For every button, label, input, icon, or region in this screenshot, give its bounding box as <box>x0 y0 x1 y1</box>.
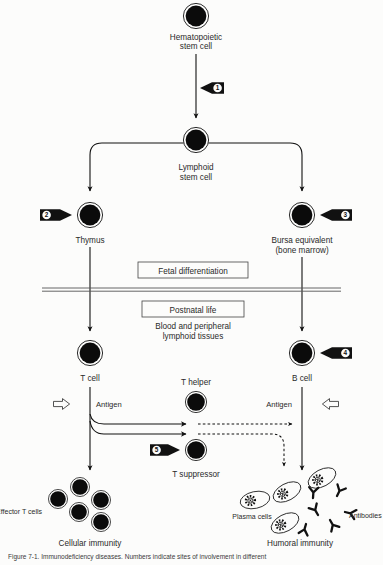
filled-cell-icon <box>71 478 90 497</box>
bursa-equivalent-label-line1: Bursa equivalent <box>272 236 334 245</box>
bursa-equivalent-label-line2: (bone marrow) <box>275 246 329 255</box>
marker-1: 1 <box>200 82 224 94</box>
t-suppressor-node: T suppressor <box>172 439 220 479</box>
plasma-cells-label: Plasma cells <box>232 513 272 520</box>
branch-lymphoid-to-bursa <box>208 143 302 191</box>
plasma-cell-icon <box>268 509 302 538</box>
b-cell-label: B cell <box>292 374 312 383</box>
plasma-cell-icon <box>239 489 272 512</box>
plasma-cells-group: Plasma cells <box>232 464 339 538</box>
thymus-node: Thymus <box>75 202 104 245</box>
filled-cell-icon <box>92 513 111 532</box>
filled-cell-icon <box>77 202 102 227</box>
filled-cell-icon <box>92 491 111 510</box>
t-suppressor-label: T suppressor <box>172 470 220 479</box>
branch-tcell-to-tsuppressor <box>90 421 186 434</box>
tissue-note-line2: lymphoid tissues <box>163 332 224 341</box>
tissue-note-line1: Blood and peripheral <box>155 322 231 331</box>
figure-caption: Figure 7-1. Immunodeficiency diseases. N… <box>8 553 380 561</box>
antibodies-label: Antibodies <box>349 512 382 519</box>
marker-3-label: 3 <box>344 211 348 218</box>
b-cell-node: B cell <box>289 340 314 383</box>
hematopoietic-stem-cell-node: Hematopoietic stem cell <box>170 3 222 51</box>
antibody-y-icon <box>333 484 346 498</box>
filled-cell-icon <box>49 490 68 509</box>
marker-2: 2 <box>40 209 72 221</box>
lymphoid-stem-cell-label-line2: stem cell <box>180 173 212 182</box>
hollow-arrow-icon <box>54 399 70 410</box>
marker-1-label: 1 <box>216 84 220 91</box>
antibody-y-icon <box>308 487 318 498</box>
filled-cell-icon <box>77 340 102 365</box>
effector-t-cells-label: Effector T cells <box>0 508 42 515</box>
branch-lymphoid-to-thymus <box>90 143 184 191</box>
stage-box-fetal-label: Fetal differentiation <box>158 267 228 276</box>
lymphoid-stem-cell-label-line1: Lymphoid <box>178 163 214 172</box>
antigen-left: Antigen <box>54 399 122 410</box>
filled-cell-icon <box>183 3 208 28</box>
t-helper-label: T helper <box>181 378 211 387</box>
antigen-left-label: Antigen <box>96 400 122 409</box>
marker-5-label: 5 <box>155 446 159 453</box>
antibody-y-icon <box>309 504 322 518</box>
thymus-label: Thymus <box>75 236 104 245</box>
hollow-arrow-icon <box>322 399 338 410</box>
antigen-right-label: Antigen <box>266 400 292 409</box>
filled-cell-icon <box>185 391 206 412</box>
filled-cell-icon <box>289 202 314 227</box>
marker-2-label: 2 <box>45 211 49 218</box>
immunodeficiency-diagram: Hematopoietic stem cell 1 Lymphoid stem … <box>0 0 383 565</box>
stage-divider <box>42 288 341 291</box>
marker-4-label: 4 <box>344 349 348 356</box>
hematopoietic-stem-cell-label-line2: stem cell <box>180 42 212 51</box>
filled-cell-icon <box>70 503 89 522</box>
cellular-immunity-label: Cellular immunity <box>59 539 123 548</box>
antibody-y-icon <box>326 518 339 532</box>
lymphoid-stem-cell-node: Lymphoid stem cell <box>178 127 214 181</box>
marker-5: 5 <box>150 444 180 456</box>
filled-cell-icon <box>185 439 206 460</box>
t-cell-node: T cell <box>77 340 102 383</box>
antibodies-group: Antibodies <box>299 484 383 535</box>
effector-t-cells-group: Effector T cells <box>0 478 111 532</box>
t-cell-label: T cell <box>80 374 100 383</box>
stage-box-postnatal-label: Postnatal life <box>170 306 217 315</box>
bursa-equivalent-node: Bursa equivalent (bone marrow) <box>272 202 334 254</box>
antibody-y-icon <box>299 523 311 536</box>
stage-box-fetal: Fetal differentiation <box>138 262 248 278</box>
stage-box-postnatal: Postnatal life <box>142 301 244 317</box>
hematopoietic-stem-cell-label-line1: Hematopoietic <box>170 33 222 42</box>
marker-4: 4 <box>320 347 352 359</box>
humoral-immunity-label: Humoral immunity <box>267 539 334 548</box>
marker-3: 3 <box>320 209 352 221</box>
figure-canvas: Hematopoietic stem cell 1 Lymphoid stem … <box>0 0 383 565</box>
dashed-tsuppressor-to-humoral <box>198 434 284 466</box>
plasma-cell-icon <box>270 478 304 507</box>
filled-cell-icon <box>289 340 314 365</box>
t-helper-node: T helper <box>181 378 211 413</box>
filled-cell-icon <box>183 127 208 152</box>
branch-tcell-to-thelper <box>90 414 186 424</box>
